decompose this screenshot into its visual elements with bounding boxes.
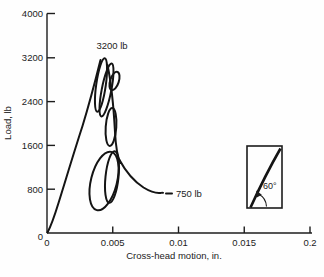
y-tick-labels: 4000 3200 2400 1600 800 0 (22, 8, 43, 242)
load-displacement-figure: 4000 3200 2400 1600 800 0 0 0.005 0.01 0… (0, 0, 324, 277)
load-displacement-chart: 4000 3200 2400 1600 800 0 0 0.005 0.01 0… (0, 0, 324, 277)
y-tick-label: 800 (27, 184, 43, 195)
x-tick-labels: 0 0.005 0.01 0.015 0.2 (44, 237, 316, 248)
y-tick-label: 3200 (22, 52, 43, 63)
y-tick-label: 2400 (22, 96, 43, 107)
y-tick-label: 4000 (22, 8, 43, 19)
x-tick-label: 0.015 (232, 237, 256, 248)
inset-angle-label: 60° (263, 181, 277, 191)
y-axis-title: Load, lb (2, 106, 13, 140)
load-curve-tail (120, 160, 164, 193)
x-tick-label: 0.01 (169, 237, 188, 248)
x-axis-title: Cross-head motion, in. (126, 250, 222, 261)
final-load-label: 750 lb (176, 188, 202, 199)
x-tick-label: 0.005 (101, 237, 125, 248)
peak-load-label: 3200 lb (96, 40, 127, 51)
x-tick-label: 0.2 (303, 237, 316, 248)
x-tick-label: 0 (44, 237, 49, 248)
inset-sketch: 60° (247, 146, 282, 208)
y-tick-label: 0 (38, 231, 43, 242)
hysteresis-loop (84, 149, 124, 214)
load-curve (48, 58, 173, 233)
y-tick-label: 1600 (22, 140, 43, 151)
